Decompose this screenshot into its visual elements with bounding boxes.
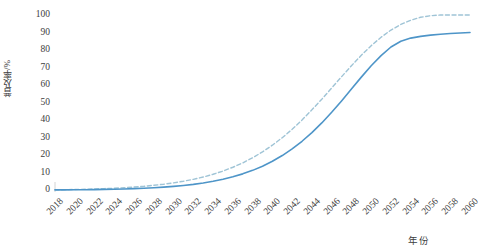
plot-area: [0, 0, 496, 252]
penetration-rate-line-chart: 普及率/% 0102030405060708090100 20182020202…: [0, 0, 496, 252]
series-line-2: [55, 33, 470, 190]
series-line-1: [55, 15, 470, 190]
x-axis-title: 年份: [408, 233, 429, 247]
